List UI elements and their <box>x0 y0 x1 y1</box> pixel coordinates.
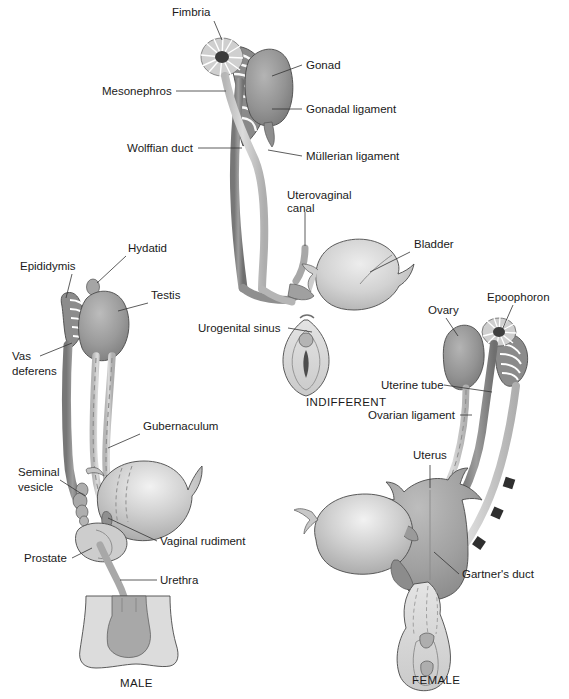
label-seminal-vesicle-line2: vesicle <box>18 481 53 493</box>
label-gonad: Gonad <box>306 59 341 71</box>
label-ovarian-ligament: Ovarian ligament <box>368 409 456 421</box>
leader-line-hydatid <box>97 256 126 283</box>
bladder-structure <box>302 239 414 310</box>
label-urogenital-sinus: Urogenital sinus <box>198 322 281 334</box>
label-uterine-tube: Uterine tube <box>381 379 444 391</box>
label-uterovaginal-canal-line1: Uterovaginal <box>287 189 352 201</box>
panel-male <box>61 279 202 668</box>
label-urethra: Urethra <box>160 574 199 586</box>
caption-female: FEMALE <box>412 674 460 686</box>
label-mesonephros: Mesonephros <box>102 85 172 97</box>
label-gubernaculum: Gubernaculum <box>143 420 218 432</box>
label-testis: Testis <box>151 289 181 301</box>
label-vas-deferens-line1: Vas <box>12 350 31 362</box>
panel-female <box>294 317 528 691</box>
label-epididymis: Epididymis <box>20 260 76 272</box>
label-uterus: Uterus <box>413 449 447 461</box>
fimbria-structure <box>201 37 243 77</box>
label-ovary: Ovary <box>428 304 459 316</box>
male-external-genitalia <box>80 596 178 668</box>
bladder-female-structure <box>294 494 418 590</box>
label-gartners-duct: Gartner's duct <box>462 568 535 580</box>
label-wolffian-duct: Wolffian duct <box>127 142 194 154</box>
label-gonadal-ligament: Gonadal ligament <box>306 103 397 115</box>
ovary-structure <box>443 325 484 390</box>
label-mullerian-ligament: Müllerian ligament <box>306 150 400 162</box>
caption-indifferent: INDIFFERENT <box>306 396 386 408</box>
label-epoophoron: Epoophoron <box>487 291 550 303</box>
leader-line-fimbria <box>214 21 222 40</box>
panel-indifferent <box>201 37 414 396</box>
figure-canvas: FimbriaGonadMesonephrosGonadal ligamentW… <box>0 0 569 699</box>
caption-male: MALE <box>120 677 153 689</box>
label-vas-deferens-line2: deferens <box>12 365 57 377</box>
testis-structure <box>79 291 129 361</box>
label-seminal-vesicle-line1: Seminal <box>18 466 60 478</box>
gonadal-ligament-structure <box>264 122 274 147</box>
label-uterovaginal-canal-line2: canal <box>287 202 315 214</box>
label-prostate: Prostate <box>24 552 67 564</box>
uterovaginal-canal-structure <box>243 248 314 302</box>
label-vaginal-rudiment: Vaginal rudiment <box>160 535 246 547</box>
leader-line-gubernaculum <box>108 434 140 448</box>
anatomy-diagram: FimbriaGonadMesonephrosGonadal ligamentW… <box>0 0 569 699</box>
label-bladder: Bladder <box>414 238 454 250</box>
urogenital-sinus-structure <box>283 315 329 396</box>
label-hydatid: Hydatid <box>128 242 167 254</box>
gonad-structure <box>245 49 293 126</box>
vas-deferens-structure <box>67 345 81 506</box>
label-fimbria: Fimbria <box>172 6 211 18</box>
leader-line-mullerian-ligament <box>268 150 302 156</box>
